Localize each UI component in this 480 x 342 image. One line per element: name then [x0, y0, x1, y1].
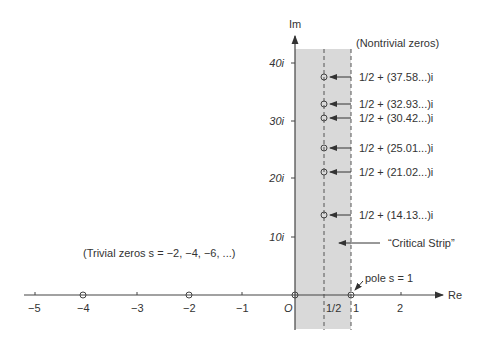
svg-text:1/2 + (25.01...)i: 1/2 + (25.01...)i: [359, 142, 433, 154]
svg-text:1/2 + (32.93...)i: 1/2 + (32.93...)i: [359, 98, 433, 110]
x-tick-label: −4: [77, 302, 90, 314]
svg-text:1/2 + (37.58...)i: 1/2 + (37.58...)i: [359, 71, 433, 83]
x-tick-label: −3: [131, 302, 144, 314]
nontrivial-zeros-title: (Nontrivial zeros): [356, 37, 439, 49]
y-tick-label: 20i: [268, 172, 284, 184]
svg-text:1/2 + (21.02...)i: 1/2 + (21.02...)i: [359, 166, 433, 178]
zeta-zeros-diagram: −5 −4 −3 −2 −1 O 1/2 1 2 Re 10i 20i 30i …: [0, 0, 480, 342]
y-tick-label: 10i: [269, 231, 284, 243]
re-axis-label: Re: [448, 289, 462, 301]
svg-text:1/2 + (30.42...)i: 1/2 + (30.42...)i: [359, 112, 433, 124]
critical-strip-label: “Critical Strip”: [388, 237, 455, 249]
y-tick-label: 40i: [269, 57, 284, 69]
x-tick-label: −1: [236, 302, 249, 314]
trivial-zeros-label: (Trivial zeros s = −2, −4, −6, ...): [83, 247, 235, 259]
im-axis-label: Im: [289, 18, 301, 30]
origin-label: O: [284, 302, 293, 314]
x-tick-label: 1: [353, 302, 359, 314]
half-label: 1/2: [326, 302, 341, 314]
critical-strip: [295, 49, 351, 329]
x-tick-label: −2: [183, 302, 196, 314]
x-tick-label: −5: [28, 302, 41, 314]
y-tick-label: 30i: [269, 115, 284, 127]
x-tick-label: 2: [397, 302, 403, 314]
pole-label: pole s = 1: [365, 272, 413, 284]
pole-arrow: [355, 281, 363, 290]
svg-text:1/2 + (14.13...)i: 1/2 + (14.13...)i: [359, 209, 433, 221]
